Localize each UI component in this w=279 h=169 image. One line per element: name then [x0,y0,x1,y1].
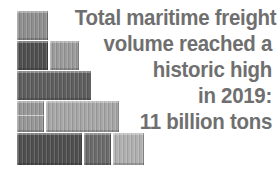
edge-left-highlight [17,71,18,100]
corrugation-ribs [17,11,48,40]
edge-right-highlight [110,133,111,165]
edge-left-highlight [50,41,51,70]
edge-right-highlight [47,41,48,70]
edge-bottom-highlight [17,163,82,165]
corrugation-ribs [17,101,44,132]
edge-left-highlight [84,133,85,165]
cargo-container [84,133,111,165]
headline-line-2: volume reached a [75,31,272,57]
container-row [17,11,48,40]
edge-top-highlight [17,11,48,13]
edge-bottom-highlight [113,163,144,165]
edge-right-highlight [81,133,82,165]
cargo-container [17,133,82,165]
edge-left-highlight [113,133,114,165]
headline-line-3: historic high [75,57,272,83]
edge-right-highlight [43,101,44,132]
edge-top-highlight [17,41,48,43]
container-divider-band [17,115,44,116]
cargo-container [113,133,144,165]
edge-left-highlight [17,41,18,70]
cargo-container [17,41,48,70]
edge-left-highlight [17,11,18,40]
headline-line-1: Total maritime freight [75,5,272,31]
edge-left-highlight [46,101,47,132]
edge-left-highlight [17,101,18,132]
corrugation-ribs [17,133,82,165]
infographic-page: Total maritime freight volume reached a … [0,0,279,169]
container-row [17,133,144,165]
edge-top-highlight [17,133,82,135]
corrugation-ribs [17,41,48,70]
cargo-container [17,11,48,40]
edge-right-highlight [143,133,144,165]
container-row [17,41,79,70]
edge-bottom-highlight [84,163,111,165]
corrugation-ribs [84,133,111,165]
edge-right-highlight [47,11,48,40]
headline-line-5: 11 billion tons [75,109,272,135]
corrugation-ribs [113,133,144,165]
headline-line-4: in 2019: [75,83,272,109]
edge-bottom-highlight [17,130,44,132]
cargo-container [17,101,44,132]
headline-text: Total maritime freight volume reached a … [75,5,272,135]
edge-left-highlight [17,133,18,165]
edge-bottom-highlight [17,38,48,40]
edge-top-highlight [17,101,44,103]
edge-bottom-highlight [17,68,48,70]
